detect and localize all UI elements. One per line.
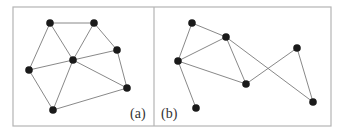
graph-edge (178, 61, 196, 108)
graph-edge (117, 50, 127, 88)
graph-edge (50, 23, 73, 60)
graph-node (49, 106, 57, 114)
graph-node (188, 19, 196, 27)
graph-node (25, 66, 33, 74)
graph-edge (53, 88, 127, 110)
graph-node (192, 104, 200, 112)
graph-node (123, 84, 131, 92)
graph-edge (94, 23, 117, 50)
panel-a-graph: (a) (25, 19, 146, 122)
graph-node (293, 44, 301, 52)
panel-b-nodes (174, 19, 317, 112)
graph-edge (178, 61, 246, 84)
graph-edge (73, 50, 117, 60)
panel-a-nodes (25, 19, 131, 114)
graph-node (113, 46, 121, 54)
graph-edge (297, 48, 313, 102)
panel-a-label: (a) (130, 106, 146, 122)
panel-b-edges (178, 23, 313, 108)
graph-edge (29, 23, 50, 70)
graph-edge (192, 23, 226, 37)
panel-b-label: (b) (161, 106, 178, 122)
graph-node (309, 98, 317, 106)
graph-edge (53, 60, 73, 110)
graph-edge (73, 60, 127, 88)
graph-edge (29, 70, 53, 110)
graph-node (242, 80, 250, 88)
graph-node (69, 56, 77, 64)
panel-a-edges (29, 23, 127, 110)
graph-edge (73, 23, 94, 60)
panel-b-graph: (b) (161, 19, 317, 122)
graph-node (174, 57, 182, 65)
graph-node (90, 19, 98, 27)
graph-node (46, 19, 54, 27)
graph-node (222, 33, 230, 41)
graph-edge (246, 48, 297, 84)
graph-edge (29, 60, 73, 70)
graph-figure: (a) (b) (0, 0, 339, 133)
